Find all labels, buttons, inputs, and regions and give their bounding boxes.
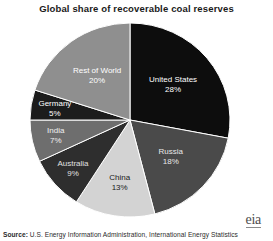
source-note: Source: U.S. Energy Information Administ…: [3, 231, 238, 238]
source-text: U.S. Energy Information Administration, …: [30, 231, 238, 238]
source-label: Source:: [3, 231, 28, 238]
pie-slices-group: [30, 23, 230, 217]
pie-chart-figure: Global share of recoverable coal reserve…: [0, 0, 273, 241]
pie-svg: [29, 22, 231, 218]
pie-chart-plot: United States28%Russia18%China13%Austral…: [29, 22, 231, 218]
eia-logo-text: eia: [246, 212, 261, 227]
eia-logo: eia: [246, 212, 261, 228]
chart-title: Global share of recoverable coal reserve…: [0, 3, 273, 14]
eia-logo-underline: [246, 227, 261, 228]
pie-slice: [130, 23, 230, 138]
